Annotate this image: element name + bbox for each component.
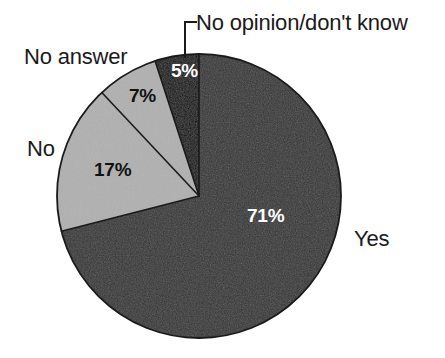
pie-chart-figure: No opinion/don't know No answer No Yes 7… <box>0 0 445 358</box>
slice-label-no-opinion: No opinion/don't know <box>196 12 408 34</box>
slice-value-yes: 71% <box>247 206 284 225</box>
leader-line-no-opinion <box>185 22 196 57</box>
slice-value-no-answer: 7% <box>129 86 156 105</box>
slice-value-no: 17% <box>94 160 131 179</box>
slice-label-no-answer: No answer <box>24 46 127 68</box>
slice-label-no: No <box>27 138 55 160</box>
slice-value-no-opinion: 5% <box>171 61 198 80</box>
slice-label-yes: Yes <box>354 228 389 250</box>
